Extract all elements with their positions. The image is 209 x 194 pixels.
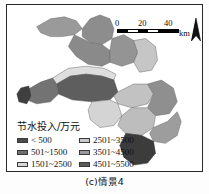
scale-bar-segment bbox=[148, 30, 158, 32]
map-region-east-mid-light[interactable] bbox=[114, 84, 154, 108]
map-region-southeast-lobe[interactable] bbox=[148, 80, 178, 116]
legend-entries: < 500 2501~3500 501~1500 3501~4500 bbox=[17, 134, 163, 170]
scale-bar-segment bbox=[118, 30, 128, 32]
figure-caption: (c)情景4 bbox=[0, 176, 209, 188]
scale-tick-0: 0 bbox=[115, 19, 119, 28]
scale-tick-40: 40 bbox=[164, 19, 173, 28]
legend-item-lt-500[interactable]: < 500 bbox=[17, 135, 79, 145]
legend-swatch-icon bbox=[79, 150, 90, 155]
legend-swatch-icon bbox=[79, 138, 90, 143]
map-region-west-arm[interactable] bbox=[27, 78, 59, 104]
map-region-west-tip-dark[interactable] bbox=[17, 86, 31, 104]
legend-item-1501-2500[interactable]: 1501~2500 bbox=[17, 159, 79, 169]
scale-bar-segment bbox=[158, 30, 168, 32]
scale-tick-20: 20 bbox=[138, 19, 147, 28]
legend-row: < 500 2501~3500 bbox=[17, 134, 163, 146]
legend-item-2501-3500[interactable]: 2501~3500 bbox=[79, 135, 159, 145]
legend-item-501-1500[interactable]: 501~1500 bbox=[17, 147, 79, 157]
legend-label: 4501~5500 bbox=[93, 159, 134, 169]
legend-label: 3501~4500 bbox=[93, 147, 134, 157]
legend-label: 501~1500 bbox=[31, 147, 67, 157]
scale-bar-segment bbox=[128, 30, 138, 32]
north-arrow-icon bbox=[189, 17, 203, 43]
figure-panel: 0 20 40 km 节水投入/万元 bbox=[0, 0, 209, 194]
map-region-northwest-tail[interactable] bbox=[37, 17, 83, 37]
legend-row: 501~1500 3501~4500 bbox=[17, 146, 163, 158]
legend-label: 2501~3500 bbox=[93, 135, 134, 145]
legend-item-4501-5500[interactable]: 4501~5500 bbox=[79, 159, 159, 169]
map-legend: 节水投入/万元 < 500 2501~3500 501~1500 bbox=[17, 121, 163, 170]
legend-swatch-icon bbox=[79, 162, 90, 167]
legend-item-3501-4500[interactable]: 3501~4500 bbox=[79, 147, 159, 157]
scale-bar: 0 20 40 km bbox=[115, 19, 187, 41]
legend-swatch-icon bbox=[17, 150, 28, 155]
legend-title: 节水投入/万元 bbox=[17, 121, 163, 133]
scale-bar-segment bbox=[168, 30, 178, 32]
scale-bar-track bbox=[117, 29, 179, 33]
legend-row: 1501~2500 4501~5500 bbox=[17, 158, 163, 170]
map-frame: 0 20 40 km 节水投入/万元 bbox=[6, 4, 203, 172]
map-region-north-upper-lobe[interactable] bbox=[82, 15, 114, 45]
map-region-east-upper-light[interactable] bbox=[134, 39, 158, 73]
legend-swatch-icon bbox=[17, 138, 28, 143]
legend-swatch-icon bbox=[17, 162, 28, 167]
legend-label: 1501~2500 bbox=[31, 159, 72, 169]
legend-label: < 500 bbox=[31, 135, 52, 145]
scale-bar-segment bbox=[138, 30, 148, 32]
